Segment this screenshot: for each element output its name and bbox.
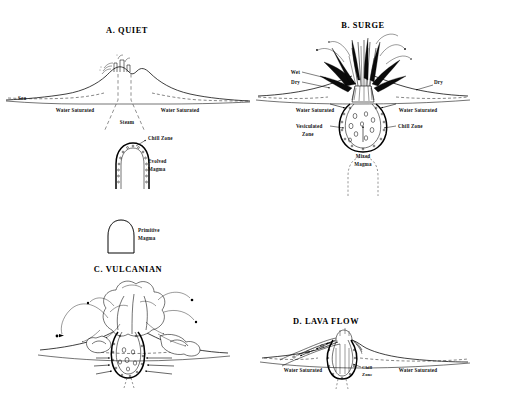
panel-d-water-saturated-left: Water Saturated (284, 367, 323, 373)
panel-d-conduit (327, 340, 357, 389)
panel-a-evolved-magma-body: Chill Zone Evolved Magma (116, 135, 173, 189)
legend-primitive-magma: Primitive Magma (108, 220, 160, 253)
panel-c-eruption-cloud (103, 281, 165, 336)
primitive-magma-label-1: Primitive (138, 227, 160, 233)
panel-a-edifice-profile (6, 67, 250, 101)
panel-d-chill-zone-label-2: Zone (362, 372, 372, 377)
panel-c-conduit-magma (111, 332, 145, 388)
panel-b-ash-jets (320, 38, 406, 92)
panel-b-vesiculated-neck (352, 86, 374, 102)
panel-d-water-table-dash-left (264, 358, 318, 360)
panel-b-wet-label: Wet (291, 69, 300, 75)
panel-b-water-inflow-right (381, 104, 396, 108)
panel-a-evolved-magma-label-1: Evolved (148, 158, 167, 164)
panel-b-dry-label-right: Dry (434, 79, 443, 85)
panel-a-steam-conduit-left (104, 74, 118, 132)
panel-b-water-saturated-left: Water Saturated (296, 107, 335, 113)
panel-b-wet-leader (302, 72, 326, 78)
panel-b-mixed-magma-chamber (330, 104, 396, 152)
panel-d-lava-flow: D. LAVA FLOW (260, 317, 470, 389)
panel-b-vesiculated-zone-label-2: Zone (302, 131, 314, 137)
panel-b-sea-level-dash-left (258, 97, 328, 99)
panel-b-interior-vesicles (349, 112, 375, 142)
panel-b-surge: B. SURGE (256, 21, 470, 196)
panel-b-water-saturated-right: Water Saturated (399, 107, 438, 113)
panel-b-vesiculated-zone-leader (330, 126, 344, 128)
primitive-magma-label-2: Magma (138, 235, 156, 241)
panel-a-waterline (6, 101, 250, 104)
panel-c-vulcanian: C. VULCANIAN (38, 265, 230, 388)
panel-b-sea-level-dash-right (396, 97, 468, 99)
panel-a-chill-zone-label: Chill Zone (148, 135, 173, 141)
panel-d-edifice-profile (262, 340, 468, 362)
panel-c-title: C. VULCANIAN (94, 265, 162, 274)
panel-a-quiet: A. QUIET Sea Water Saturated Water Satur… (6, 26, 250, 189)
panel-a-steam-label: Steam (120, 119, 135, 125)
primitive-magma-blob (108, 220, 134, 253)
panel-b-chill-zone-leader (384, 126, 396, 128)
panel-d-water-saturated-right: Water Saturated (399, 367, 438, 373)
panel-a-title: A. QUIET (106, 26, 148, 35)
panel-d-title: D. LAVA FLOW (293, 317, 359, 326)
panel-a-evolved-magma-label-2: Magma (148, 166, 166, 172)
panel-b-dry-label-left: Dry (291, 79, 300, 85)
panel-a-water-saturated-right: Water Saturated (161, 107, 200, 113)
panel-c-water-table-dash (96, 352, 172, 354)
panel-b-mixed-magma-label-2: Magma (354, 161, 372, 167)
figure-root: A. QUIET Sea Water Saturated Water Satur… (0, 0, 508, 397)
panel-b-vesiculated-zone-label-1: Vesiculated (296, 123, 322, 129)
panel-b-dry-leader-right (416, 85, 433, 90)
panel-a-water-saturated-left: Water Saturated (56, 107, 95, 113)
panel-b-chill-zone-label: Chill Zone (398, 123, 423, 129)
panel-c-waterline (38, 355, 230, 361)
volcano-eruption-styles-diagram: A. QUIET Sea Water Saturated Water Satur… (0, 0, 508, 397)
panel-b-title: B. SURGE (341, 21, 384, 30)
panel-a-chill-zone-stipple (118, 145, 148, 183)
panel-a-summit-vents (100, 55, 130, 74)
panel-d-chill-zone-label-1: Chill (362, 365, 373, 370)
panel-a-sea-label: Sea (18, 95, 26, 101)
